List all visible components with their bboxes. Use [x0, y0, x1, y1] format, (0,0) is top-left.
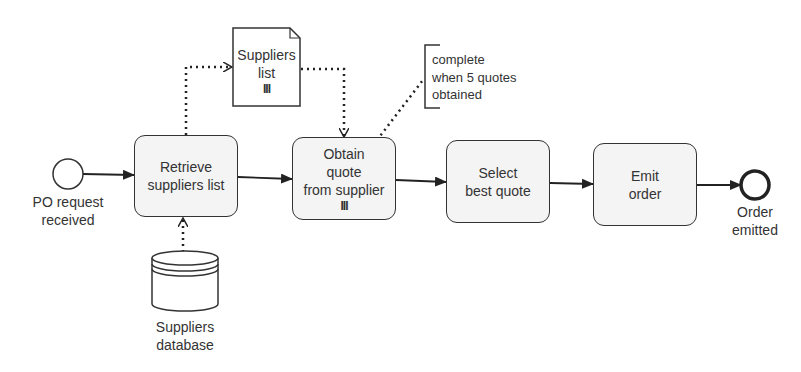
annotation-association[interactable] [377, 80, 423, 140]
annotation-line1: complete [432, 51, 517, 69]
data-object-label: Suppliers list III [233, 46, 300, 96]
sequence-flow-retrieve-to-obtain[interactable] [238, 177, 292, 179]
start-event[interactable] [53, 159, 83, 189]
task-label-line2: quote [326, 163, 361, 181]
data-store-line1: Suppliers [135, 318, 235, 336]
task-label-line3: from supplier [304, 181, 385, 199]
start-label-line2: received [18, 211, 118, 229]
data-association-list-to-obtain[interactable] [301, 69, 344, 137]
task-label-line1: Emit [631, 167, 659, 185]
database-icon[interactable] [152, 251, 218, 311]
task-retrieve-suppliers-list[interactable]: Retrieve suppliers list [134, 135, 238, 217]
sequence-flow-obtain-to-select[interactable] [396, 180, 446, 182]
start-event-label: PO request received [18, 193, 118, 229]
data-association-retrieve-to-list[interactable] [186, 67, 232, 135]
end-event-label: Order emitted [715, 203, 795, 239]
task-label-line1: Retrieve [160, 158, 212, 176]
sequence-flow-select-to-emit[interactable] [550, 183, 593, 184]
sequence-flow-start-to-retrieve[interactable] [83, 174, 134, 175]
task-select-best-quote[interactable]: Select best quote [446, 140, 550, 223]
task-label-line2: suppliers list [147, 176, 224, 194]
task-label-line1: Select [479, 164, 518, 182]
text-annotation: complete when 5 quotes obtained [432, 51, 517, 104]
task-label-line1: Obtain [323, 145, 364, 163]
data-store-line2: database [135, 336, 235, 354]
task-label-line2: best quote [465, 182, 530, 200]
start-label-line1: PO request [18, 193, 118, 211]
annotation-line2: when 5 quotes [432, 69, 517, 87]
data-object-line2: list [233, 64, 300, 82]
data-store-label: Suppliers database [135, 318, 235, 354]
task-emit-order[interactable]: Emit order [593, 143, 697, 226]
end-event[interactable] [741, 171, 769, 199]
task-label-line2: order [629, 185, 662, 203]
annotation-line3: obtained [432, 86, 517, 104]
data-object-line1: Suppliers [233, 46, 300, 64]
end-label-line2: emitted [715, 221, 795, 239]
collection-marker-icon: III [233, 82, 300, 96]
multi-instance-marker-icon: III [340, 199, 347, 213]
end-label-line1: Order [715, 203, 795, 221]
task-obtain-quote[interactable]: Obtain quote from supplier III [292, 137, 396, 220]
